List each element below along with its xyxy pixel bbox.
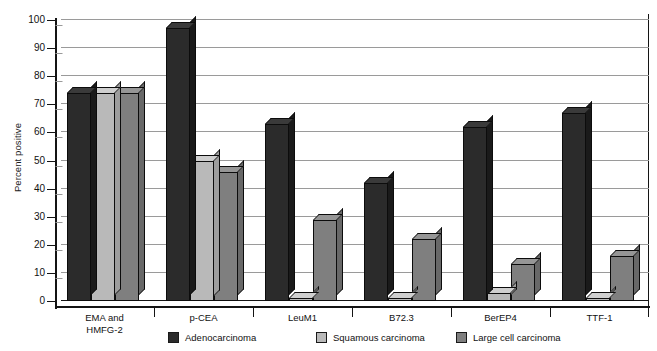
bar-side-face	[388, 171, 394, 295]
legend-swatch	[316, 332, 327, 343]
bar-group	[166, 20, 238, 301]
bar-side-face	[91, 81, 97, 295]
bars-layer	[55, 20, 649, 307]
bar-side-face	[586, 101, 592, 295]
bar	[388, 298, 412, 301]
legend-label: Adenocarcinoma	[185, 332, 256, 343]
y-tick-label-100: 100	[0, 15, 45, 25]
category-separator-tick	[154, 306, 155, 317]
bar	[364, 183, 388, 301]
bar	[166, 28, 190, 301]
category-label: TTF-1	[550, 312, 649, 324]
bar-front-face	[67, 93, 91, 301]
bar-side-face	[337, 208, 343, 295]
category-label-line: p-CEA	[154, 312, 253, 324]
category-label: LeuM1	[253, 312, 352, 324]
bar-front-face	[364, 183, 388, 301]
bar	[265, 124, 289, 301]
category-label: BerEP4	[451, 312, 550, 324]
bar	[67, 93, 91, 301]
y-tick-label-90: 90	[0, 43, 45, 53]
bar-group	[364, 20, 436, 301]
bar-group	[463, 20, 535, 301]
y-tick-label-50: 50	[0, 156, 45, 166]
bar-side-face	[238, 160, 244, 295]
bar-side-face	[214, 149, 220, 296]
category-label-line: EMA and	[55, 312, 154, 324]
bar-front-face	[463, 127, 487, 301]
category-label-line: B72.3	[352, 312, 451, 324]
legend-swatch	[456, 332, 467, 343]
bar-front-face	[562, 113, 586, 301]
y-tick-label-10: 10	[0, 268, 45, 278]
category-label: B72.3	[352, 312, 451, 324]
bar-side-face	[190, 16, 196, 295]
y-tick-label-70: 70	[0, 99, 45, 109]
legend-item: Adenocarcinoma	[168, 332, 256, 343]
bar-front-face	[166, 28, 190, 301]
bar-front-face	[388, 298, 412, 301]
category-separator-tick	[550, 306, 551, 317]
legend-label: Large cell carcinoma	[473, 332, 561, 343]
bar	[586, 298, 610, 301]
bar-side-face	[487, 115, 493, 295]
category-separator-tick	[352, 306, 353, 317]
bar-side-face	[115, 81, 121, 295]
bar-chart: Percent positive 0102030405060708090100 …	[0, 0, 657, 351]
y-tick-label-60: 60	[0, 127, 45, 137]
category-label-line: LeuM1	[253, 312, 352, 324]
bar-front-face	[586, 298, 610, 301]
bar	[463, 127, 487, 301]
category-label: p-CEA	[154, 312, 253, 324]
legend-item: Large cell carcinoma	[456, 332, 561, 343]
bar-group	[562, 20, 634, 301]
legend-swatch	[168, 332, 179, 343]
y-tick-label-80: 80	[0, 71, 45, 81]
bar	[487, 293, 511, 301]
plot-area	[55, 20, 649, 307]
bar-front-face	[289, 298, 313, 301]
y-tick-label-0: 0	[0, 296, 45, 306]
legend-item: Squamous carcinoma	[316, 332, 425, 343]
bar-side-face	[289, 112, 295, 295]
legend-label: Squamous carcinoma	[333, 332, 425, 343]
category-separator-tick	[253, 306, 254, 317]
bar	[562, 113, 586, 301]
bar-front-face	[487, 293, 511, 301]
y-tick-label-30: 30	[0, 212, 45, 222]
bar-group	[265, 20, 337, 301]
category-label-line: TTF-1	[550, 312, 649, 324]
bar-front-face	[265, 124, 289, 301]
category-label-line: BerEP4	[451, 312, 550, 324]
bar-group	[67, 20, 139, 301]
category-separator-tick	[648, 306, 649, 317]
y-tick-label-40: 40	[0, 184, 45, 194]
bar	[289, 298, 313, 301]
bar-side-face	[139, 81, 145, 295]
category-separator-tick	[451, 306, 452, 317]
y-tick-label-20: 20	[0, 240, 45, 250]
chart-legend: AdenocarcinomaSquamous carcinomaLarge ce…	[0, 332, 657, 350]
